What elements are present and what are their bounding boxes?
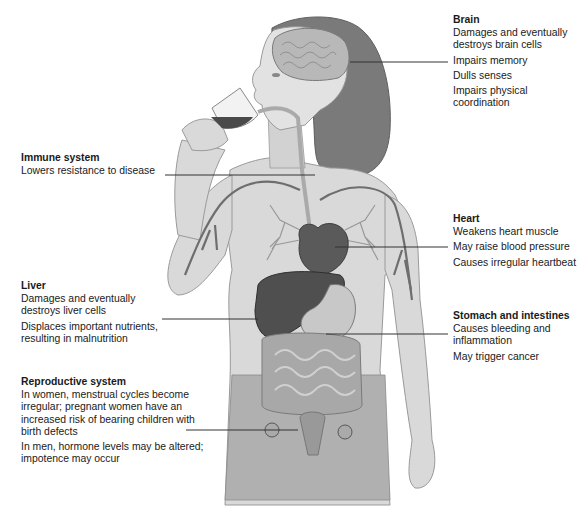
label-item: May trigger cancer: [453, 351, 585, 363]
label-title: Stomach and intestines: [453, 310, 585, 322]
label-item: Dulls senses: [453, 70, 585, 82]
intestines: [262, 333, 362, 415]
label-title: Brain: [453, 14, 585, 26]
label-item: Causes bleeding and inflammation: [453, 323, 585, 347]
label-stomach-and-intestines: Stomach and intestines Causes bleeding a…: [453, 310, 585, 366]
label-item: Damages and eventually destroys liver ce…: [21, 293, 171, 317]
label-heart: Heart Weakens heart muscle May raise blo…: [453, 213, 585, 272]
label-title: Immune system: [21, 152, 171, 164]
label-item: Weakens heart muscle: [453, 226, 585, 238]
label-item: May raise blood pressure: [453, 241, 585, 253]
label-reproductive-system: Reproductive system In women, menstrual …: [21, 376, 211, 468]
brain-organ: [272, 28, 349, 80]
label-item: Damages and eventually destroys brain ce…: [453, 27, 585, 51]
eye: [272, 73, 280, 77]
right-arm: [385, 195, 435, 488]
label-item: Impairs physical coordination: [453, 85, 585, 109]
label-liver: Liver Damages and eventually destroys li…: [21, 280, 171, 348]
label-title: Heart: [453, 213, 585, 225]
label-item: Lowers resistance to disease: [21, 165, 171, 177]
label-item: Impairs memory: [453, 55, 585, 67]
label-item: Causes irregular heartbeat: [453, 257, 585, 269]
label-item: In women, menstrual cycles become irregu…: [21, 389, 211, 438]
label-brain: Brain Damages and eventually destroys br…: [453, 14, 585, 112]
label-item: Displaces important nutrients, resulting…: [21, 321, 171, 345]
label-immune-system: Immune system Lowers resistance to disea…: [21, 152, 171, 180]
label-item: In men, hormone levels may be altered; i…: [21, 441, 211, 465]
label-title: Reproductive system: [21, 376, 211, 388]
label-title: Liver: [21, 280, 171, 292]
